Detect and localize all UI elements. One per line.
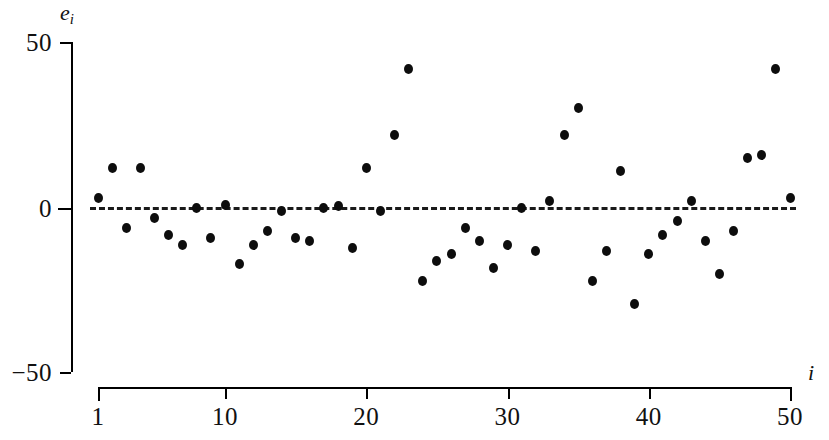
x-tick-label-10: 10 <box>195 404 255 429</box>
data-point <box>531 246 540 256</box>
data-point <box>616 166 625 176</box>
data-point <box>136 163 145 173</box>
data-point <box>729 226 738 236</box>
data-point <box>206 233 215 243</box>
x-tick-20 <box>366 387 368 399</box>
x-tick-label-20: 20 <box>336 404 396 429</box>
data-point <box>447 249 456 259</box>
data-point <box>249 240 258 250</box>
data-point <box>164 230 173 240</box>
data-point <box>503 240 512 250</box>
x-axis-title: i <box>808 362 814 384</box>
data-point <box>418 276 427 286</box>
data-point <box>348 243 357 253</box>
data-point <box>263 226 272 236</box>
x-tick-10 <box>225 387 227 399</box>
data-point <box>715 269 724 279</box>
data-point <box>602 246 611 256</box>
x-tick-label-40: 40 <box>619 404 679 429</box>
x-axis-line <box>98 387 790 389</box>
data-point <box>178 240 187 250</box>
data-point <box>489 263 498 273</box>
data-point <box>291 233 300 243</box>
y-tick-minus-50 <box>60 372 71 374</box>
data-point <box>235 259 244 269</box>
data-point <box>461 223 470 233</box>
data-point <box>517 203 526 213</box>
x-tick-label-1: 1 <box>68 404 128 429</box>
data-point <box>404 64 413 74</box>
data-point <box>150 213 159 223</box>
y-tick-50 <box>60 42 71 44</box>
data-point <box>376 206 385 216</box>
y-tick-label-0: 0 <box>0 196 52 221</box>
data-point <box>560 130 569 140</box>
y-axis-title: ei <box>60 2 74 27</box>
data-point <box>362 163 371 173</box>
data-point <box>94 193 103 203</box>
x-tick-1 <box>98 387 100 401</box>
data-point <box>475 236 484 246</box>
data-point <box>221 200 230 210</box>
data-point <box>630 299 639 309</box>
data-point <box>658 230 667 240</box>
x-tick-40 <box>649 387 651 399</box>
x-tick-label-50: 50 <box>760 404 820 429</box>
x-tick-label-30: 30 <box>478 404 538 429</box>
x-tick-50 <box>790 387 792 401</box>
plot-area <box>0 0 829 440</box>
data-point <box>757 150 766 160</box>
y-axis-line <box>71 42 73 372</box>
residual-scatter-plot: 50 0 −50 ei 11020304050 i <box>0 0 829 440</box>
y-axis-title-symbol: e <box>60 0 70 25</box>
data-point <box>687 196 696 206</box>
data-point <box>771 64 780 74</box>
data-point <box>305 236 314 246</box>
data-point <box>192 203 201 213</box>
y-tick-label-minus-50: −50 <box>0 360 52 385</box>
data-point <box>588 276 597 286</box>
y-tick-label-50: 50 <box>0 30 52 55</box>
data-point <box>574 103 583 113</box>
data-point <box>701 236 710 246</box>
data-point <box>277 206 286 216</box>
data-point <box>786 193 795 203</box>
data-point <box>390 130 399 140</box>
x-tick-30 <box>508 387 510 399</box>
data-point <box>545 196 554 206</box>
data-point <box>319 203 328 213</box>
zero-reference-line <box>90 207 796 210</box>
data-point <box>432 256 441 266</box>
data-point <box>108 163 117 173</box>
y-tick-0 <box>58 208 71 210</box>
y-axis-title-subscript: i <box>70 11 74 27</box>
data-point <box>334 201 343 211</box>
data-point <box>743 153 752 163</box>
data-point <box>122 223 131 233</box>
data-point <box>673 216 682 226</box>
data-point <box>644 249 653 259</box>
